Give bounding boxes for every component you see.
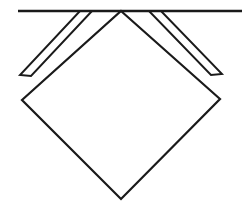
line-drawing-svg	[0, 0, 242, 209]
figure-canvas	[0, 0, 242, 209]
